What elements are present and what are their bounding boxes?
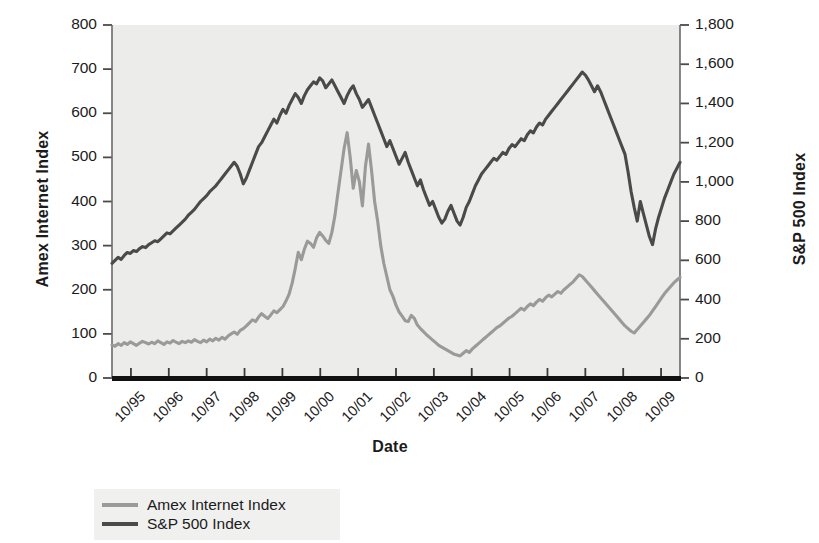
y-axis-right-tick-label: 1,600: [695, 54, 755, 72]
legend-swatch-sp-500-index: [102, 522, 138, 526]
legend-label-sp-500-index: S&P 500 Index: [147, 515, 250, 533]
y-axis-right-ticks: [680, 25, 689, 378]
legend-swatch-amex-internet-index: [102, 503, 138, 507]
plot-area: [0, 0, 819, 543]
y-axis-right-tick-label: 800: [695, 211, 755, 229]
y-axis-left-tick-label: 800: [37, 15, 97, 33]
y-axis-left-tick-label: 500: [37, 147, 97, 165]
plot-background: [112, 25, 680, 378]
y-axis-right-tick-label: 1,000: [695, 172, 755, 190]
y-axis-left-tick-label: 400: [37, 192, 97, 210]
y-axis-right-tick-label: 0: [695, 368, 755, 386]
legend-label-amex-internet-index: Amex Internet Index: [147, 496, 286, 514]
y-axis-right-title: S&P 500 Index: [791, 109, 809, 309]
y-axis-left-tick-label: 300: [37, 236, 97, 254]
y-axis-left-tick-label: 700: [37, 59, 97, 77]
y-axis-right-tick-label: 1,400: [695, 93, 755, 111]
chart-legend: Amex Internet Index S&P 500 Index: [94, 489, 340, 540]
y-axis-left-ticks: [103, 25, 112, 378]
legend-item-sp-500-index: S&P 500 Index: [102, 514, 326, 533]
y-axis-right-tick-label: 1,200: [695, 133, 755, 151]
y-axis-left-tick-label: 100: [37, 324, 97, 342]
y-axis-left-tick-label: 0: [37, 368, 97, 386]
y-axis-right-tick-label: 400: [695, 290, 755, 308]
y-axis-left-tick-label: 600: [37, 103, 97, 121]
legend-item-amex-internet-index: Amex Internet Index: [102, 495, 326, 514]
y-axis-right-tick-label: 600: [695, 250, 755, 268]
y-axis-left-tick-label: 200: [37, 280, 97, 298]
y-axis-right-tick-label: 200: [695, 329, 755, 347]
y-axis-right-tick-label: 1,800: [695, 15, 755, 33]
chart-figure: Amex Internet Index S&P 500 Index Date 0…: [0, 0, 819, 543]
